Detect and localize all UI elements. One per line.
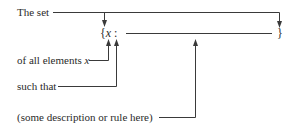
- the-set-connector: [53, 13, 280, 24]
- colon: :: [114, 26, 117, 40]
- label-such-that: such that: [17, 80, 56, 92]
- arrowhead-variable: [106, 39, 111, 46]
- label-of-all-elements: of all elements x: [17, 54, 89, 66]
- label-the-set: The set: [17, 6, 49, 18]
- arrowhead-blank: [193, 39, 198, 46]
- of-all-elements-connector: [89, 45, 109, 61]
- arrowhead-colon: [114, 39, 119, 46]
- variable-x: x: [106, 26, 111, 40]
- label-description: (some description or rule here): [17, 111, 153, 123]
- label-variable-x: x: [85, 54, 90, 66]
- close-brace: }: [277, 27, 283, 39]
- set-builder-open: {x :: [100, 27, 117, 39]
- description-connector: [159, 45, 196, 118]
